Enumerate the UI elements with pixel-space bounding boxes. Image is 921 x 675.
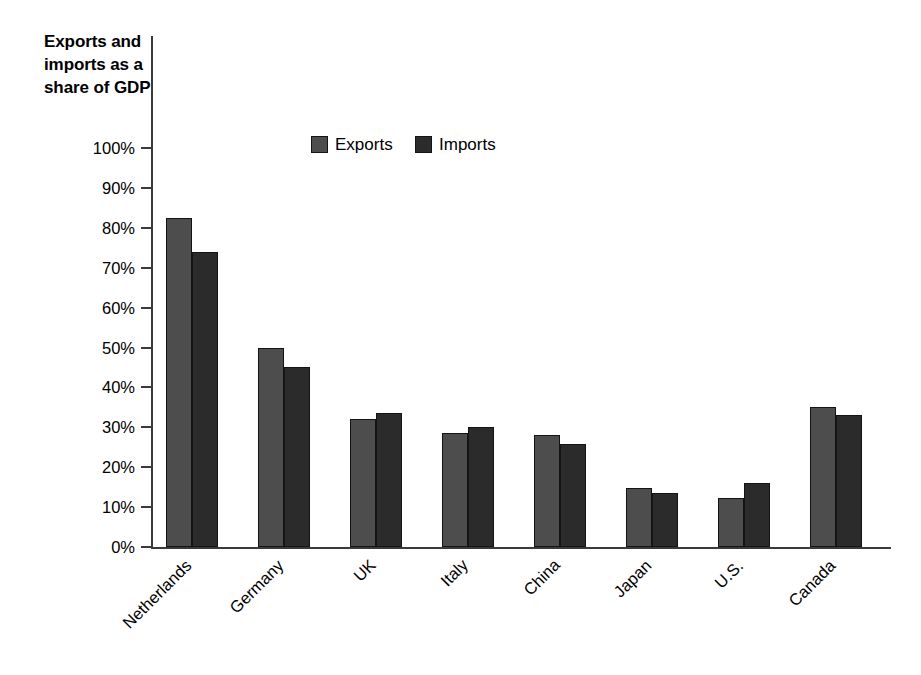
x-axis-label: UK [350,556,380,586]
bar-group [810,148,862,547]
bar-group [718,148,770,547]
bar-group [534,148,586,547]
y-axis-label: 20% [40,459,135,475]
y-axis-label: 50% [40,340,135,356]
bar-exports-china [534,435,560,547]
y-axis-tick [141,546,151,548]
bar-imports-italy [468,427,494,547]
y-axis-tick [141,466,151,468]
y-axis-label: 10% [40,499,135,515]
y-axis-label-text: 90% [47,180,135,196]
bar-group [350,148,402,547]
plot-area [153,148,891,547]
x-axis-label: Germany [226,556,287,617]
chart-title: Exports and imports as a share of GDP [44,30,152,99]
bar-chart: Exports and imports as a share of GDP 0%… [0,0,921,675]
bar-imports-germany [284,367,310,547]
bar-exports-germany [258,348,284,548]
y-axis-label: 0% [40,539,135,555]
x-axis-label: Canada [785,556,839,610]
bar-group [442,148,494,547]
y-axis-label-text: 0% [47,539,135,555]
y-axis-label-text: 10% [47,499,135,515]
bar-exports-canada [810,407,836,547]
bar-imports-china [560,444,586,547]
y-axis-label-text: 40% [47,379,135,395]
y-axis-tick [141,187,151,189]
y-axis-label-text: 80% [47,220,135,236]
bar-imports-uk [376,413,402,547]
y-axis-label: 40% [40,379,135,395]
y-axis-label-text: 70% [47,260,135,276]
bar-group [258,148,310,547]
bar-exports-italy [442,433,468,547]
bar-imports-netherlands [192,252,218,547]
x-axis-label: Italy [437,556,472,591]
y-axis-label-text: 30% [47,419,135,435]
y-axis-label: 70% [40,260,135,276]
x-axis-label: China [520,556,564,600]
y-axis-label: 90% [40,180,135,196]
bar-exports-netherlands [166,218,192,547]
x-axis-label: Japan [610,556,655,601]
y-axis-label-text: 20% [47,459,135,475]
y-axis-tick [141,426,151,428]
y-axis-label: 100% [40,140,135,156]
y-axis-tick [141,267,151,269]
bar-group [166,148,218,547]
bar-imports-u-s [744,483,770,547]
bar-imports-japan [652,493,678,547]
y-axis-label-text: 60% [47,300,135,316]
y-axis-label: 60% [40,300,135,316]
bar-group [626,148,678,547]
bar-exports-uk [350,419,376,547]
bar-exports-u-s [718,498,744,547]
y-axis-label-text: 100% [47,140,135,156]
y-axis-label-text: 50% [47,340,135,356]
y-axis-tick [141,227,151,229]
y-axis-tick [141,347,151,349]
x-axis-label: Netherlands [119,556,195,632]
chart-title-line-2: imports as a [44,53,152,76]
y-axis-tick [141,506,151,508]
y-axis-tick [141,386,151,388]
y-axis-tick [141,147,151,149]
x-axis-label: U.S. [711,556,747,592]
bar-imports-canada [836,415,862,547]
y-axis-label: 80% [40,220,135,236]
y-axis-tick [141,307,151,309]
bar-exports-japan [626,488,652,547]
y-axis-label: 30% [40,419,135,435]
chart-title-line-1: Exports and [44,30,152,53]
chart-title-line-3: share of GDP [44,76,152,99]
x-axis-line [151,547,891,549]
